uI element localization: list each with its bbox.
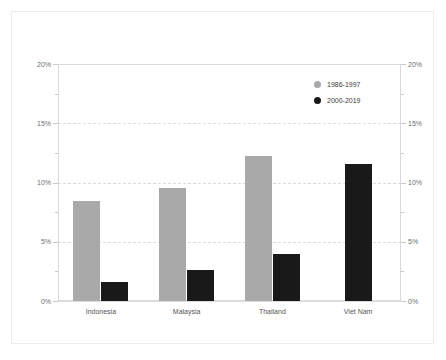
bar-group-indonesia [58, 64, 144, 301]
bar-indonesia-1986-1997 [73, 201, 100, 301]
legend-circle-marker-icon [314, 81, 321, 88]
x-axis-label-viet-nam: Viet Nam [315, 308, 401, 315]
bar-thailand-1986-1997 [245, 156, 272, 301]
legend-item-2000-2019[interactable]: 2000-2019 [314, 94, 360, 106]
y-tick-right-0 [401, 301, 406, 302]
x-axis-label-indonesia: Indonesia [58, 308, 144, 315]
y-tick-right-15 [401, 123, 406, 124]
bar-malaysia-2000-2019 [187, 270, 214, 301]
y-axis-left-label-0%: 0% [41, 298, 51, 305]
legend-circle-marker-icon [314, 97, 321, 104]
plot-area: 0%5%10%15%20% 0%5%10%15%20% IndonesiaMal… [58, 64, 401, 301]
y-axis-right-label-10%: 10% [408, 179, 422, 186]
y-axis-right-label-20%: 20% [408, 61, 422, 68]
bar-thailand-2000-2019 [273, 254, 300, 301]
y-axis-left-label-20%: 20% [37, 61, 51, 68]
x-axis-label-malaysia: Malaysia [144, 308, 230, 315]
y-tick-right-5 [401, 242, 406, 243]
y-minor-tick-right-17.5 [401, 94, 404, 95]
y-axis-left-label-5%: 5% [41, 238, 51, 245]
bar-group-malaysia [144, 64, 230, 301]
y-minor-tick-right-7.5 [401, 212, 404, 213]
legend-label: 2000-2019 [327, 97, 360, 104]
y-tick-right-10 [401, 183, 406, 184]
y-axis-left-label-10%: 10% [37, 179, 51, 186]
y-axis-right-label-0%: 0% [408, 298, 418, 305]
y-axis-right-label-15%: 15% [408, 120, 422, 127]
chart-card: 0%5%10%15%20% 0%5%10%15%20% IndonesiaMal… [11, 11, 434, 344]
legend-label: 1986-1997 [327, 81, 360, 88]
y-tick-right-20 [401, 64, 406, 65]
bar-viet-nam-2000-2019 [345, 164, 372, 301]
y-axis-left-label-15%: 15% [37, 120, 51, 127]
bar-indonesia-2000-2019 [101, 282, 128, 301]
chart-legend: 1986-19972000-2019 [314, 78, 360, 110]
y-minor-tick-right-12.5 [401, 153, 404, 154]
legend-item-1986-1997[interactable]: 1986-1997 [314, 78, 360, 90]
y-axis-right-label-5%: 5% [408, 238, 418, 245]
x-axis-label-thailand: Thailand [230, 308, 316, 315]
gridline-0 [58, 301, 401, 302]
bar-malaysia-1986-1997 [159, 188, 186, 301]
bar-group-thailand [230, 64, 316, 301]
y-tick-left-0 [53, 301, 58, 302]
y-minor-tick-right-2.5 [401, 271, 404, 272]
